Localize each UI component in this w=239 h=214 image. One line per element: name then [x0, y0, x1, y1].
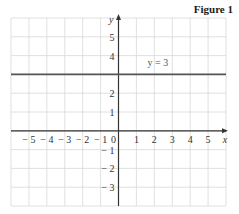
x-axis-arrow-icon: [222, 128, 228, 133]
x-tick-label: 5: [206, 134, 211, 145]
x-tick-label: − 3: [58, 134, 71, 145]
y-tick-label: − 2: [101, 163, 114, 174]
line-annotation: y = 3: [148, 57, 169, 68]
x-tick-label: 3: [170, 134, 175, 145]
x-tick-label: 0: [111, 134, 116, 145]
x-tick-label: − 2: [76, 134, 89, 145]
x-axis-label: x: [222, 134, 228, 145]
x-tick-label: − 4: [40, 134, 53, 145]
y-axis-arrow-icon: [116, 14, 121, 20]
axes: [11, 14, 228, 206]
y-axis-label: y: [108, 14, 114, 25]
y-tick-label: 4: [110, 51, 115, 62]
y-tick-label: 2: [110, 88, 115, 99]
x-tick-label: − 5: [22, 134, 35, 145]
y-tick-label: 1: [110, 107, 115, 118]
y-tick-label: 5: [110, 32, 115, 43]
x-tick-label: 2: [152, 134, 157, 145]
x-tick-label: 1: [134, 134, 139, 145]
labels: − 5− 4− 3− 2− 10123455421− 1− 2− 3xyy = …: [22, 14, 227, 193]
x-tick-label: 4: [188, 134, 193, 145]
coordinate-plane: − 5− 4− 3− 2− 10123455421− 1− 2− 3xyy = …: [0, 0, 239, 214]
x-tick-label: − 1: [94, 134, 107, 145]
y-tick-label: − 3: [101, 182, 114, 193]
y-tick-label: − 1: [101, 145, 114, 156]
